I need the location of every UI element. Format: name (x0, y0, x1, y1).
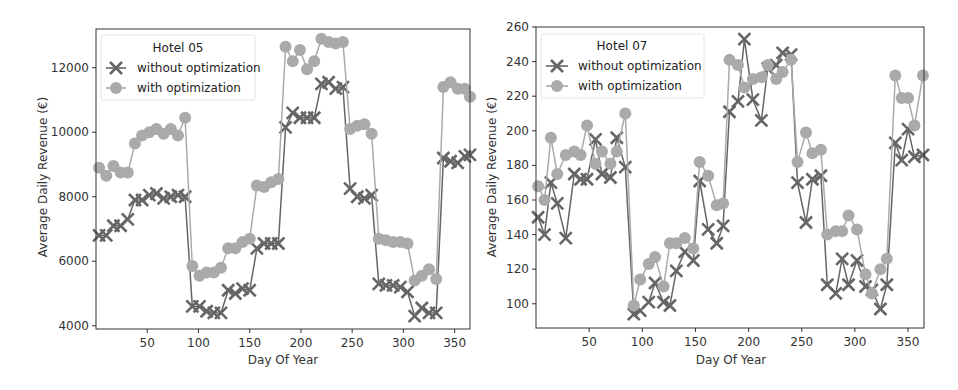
y-axis-label: Average Daily Revenue (€) (36, 97, 50, 257)
y-tick-label: 12000 (51, 61, 89, 75)
x-axis: 50100150200250300350 (582, 328, 920, 349)
data-point (416, 302, 428, 314)
data-point (100, 170, 112, 182)
data-point (658, 280, 670, 292)
data-point (679, 232, 691, 244)
y-tick-label: 140 (506, 228, 529, 242)
legend-title: Hotel 07 (597, 39, 648, 53)
data-point (908, 120, 920, 132)
data-point (896, 154, 908, 166)
data-point (581, 120, 593, 132)
data-point (762, 59, 774, 71)
y-tick-label: 8000 (58, 190, 89, 204)
data-point (215, 262, 227, 274)
data-point (881, 253, 893, 265)
data-point (843, 279, 855, 291)
x-tick-label: 300 (392, 336, 415, 350)
y-tick-label: 10000 (51, 125, 89, 139)
y-axis-label: Average Daily Revenue (€) (485, 97, 499, 257)
y-tick-label: 200 (506, 124, 529, 138)
data-point (545, 132, 557, 144)
data-point (551, 197, 563, 209)
data-point (815, 144, 827, 156)
series-without-optimization (93, 76, 476, 322)
x-axis-label: Day Of Year (248, 353, 318, 367)
y-tick-label: 220 (506, 89, 529, 103)
x-tick-label: 200 (289, 336, 312, 350)
chart-hotel-07: 50100150200250300350 1001201401601802002… (480, 0, 958, 390)
y-tick-label: 6000 (58, 254, 89, 268)
data-point (122, 213, 134, 225)
data-point (649, 251, 661, 263)
data-point (532, 211, 544, 223)
x-axis-label: Day Of Year (696, 353, 766, 367)
data-point (874, 303, 886, 315)
x-tick-label: 250 (341, 336, 364, 350)
data-point (401, 238, 413, 250)
x-tick-label: 100 (631, 335, 654, 349)
x-tick-label: 150 (684, 335, 707, 349)
data-point (611, 146, 623, 158)
data-point (590, 158, 602, 170)
y-axis: 4000600080001000012000 (51, 61, 96, 333)
data-point (280, 41, 292, 53)
legend-without-label: without optimization (137, 61, 261, 75)
data-point (122, 167, 134, 179)
data-point (694, 156, 706, 168)
y-tick-label: 100 (506, 297, 529, 311)
legend: Hotel 07 without optimization with optim… (541, 34, 704, 98)
x-tick-label: 150 (238, 336, 261, 350)
x-tick-label: 200 (737, 335, 760, 349)
data-point (532, 180, 544, 192)
data-point (902, 92, 914, 104)
data-point (294, 44, 306, 56)
data-point (634, 274, 646, 286)
data-point (358, 118, 370, 130)
y-tick-label: 120 (506, 262, 529, 276)
data-point (843, 210, 855, 222)
data-point (738, 82, 750, 94)
data-point (836, 225, 848, 237)
data-point (836, 253, 848, 265)
data-point (401, 286, 413, 298)
data-point (596, 146, 608, 158)
legend-title: Hotel 05 (153, 41, 204, 55)
x-tick-label: 300 (843, 335, 866, 349)
data-point (687, 242, 699, 254)
y-tick-label: 260 (506, 20, 529, 34)
data-point (917, 149, 929, 161)
data-point (874, 263, 886, 275)
legend: Hotel 05 without optimization with optim… (101, 35, 261, 100)
data-point (792, 156, 804, 168)
data-point (889, 69, 901, 81)
data-point (619, 107, 631, 119)
y-tick-label: 180 (506, 158, 529, 172)
data-point (551, 168, 563, 180)
data-point (337, 36, 349, 48)
x-tick-label: 350 (443, 336, 466, 350)
data-point (423, 263, 435, 275)
data-point (777, 66, 789, 78)
data-point (628, 300, 640, 312)
data-point (179, 112, 191, 124)
data-point (917, 69, 929, 81)
data-point (539, 194, 551, 206)
data-point (643, 296, 655, 308)
y-tick-label: 240 (506, 55, 529, 69)
data-point (785, 54, 797, 66)
plot-svg: 50100150200250300350 1001201401601802002… (480, 0, 958, 390)
y-axis: 100120140160180200220240260 (506, 20, 536, 311)
legend-with-label: with optimization (578, 79, 682, 93)
chart-hotel-05: 50100150200250300350 4000600080001000012… (0, 0, 480, 390)
data-point (830, 287, 842, 299)
x-tick-label: 50 (140, 336, 155, 350)
data-point (670, 265, 682, 277)
data-point (575, 149, 587, 161)
data-point (800, 127, 812, 139)
data-point (172, 129, 184, 141)
data-point (186, 260, 198, 272)
data-point (732, 59, 744, 71)
data-point (244, 233, 256, 245)
data-point (711, 237, 723, 249)
x-tick-label: 100 (187, 336, 210, 350)
